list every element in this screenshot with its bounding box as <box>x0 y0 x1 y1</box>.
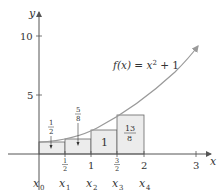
svg-text:2: 2 <box>63 165 67 173</box>
partition-label-x3: x 3 <box>112 177 123 192</box>
y-tick-label-10: 10 <box>20 31 33 42</box>
svg-text:5: 5 <box>76 106 80 114</box>
rectangle-1 <box>39 142 65 154</box>
y-tick-label-5: 5 <box>27 90 33 101</box>
svg-text:x: x <box>139 177 146 190</box>
svg-text:2: 2 <box>115 165 119 173</box>
svg-text:3: 3 <box>115 157 119 165</box>
y-axis-label: y <box>28 7 36 20</box>
svg-text:8: 8 <box>127 134 132 143</box>
x-tick-label-3half: 3 2 <box>114 157 120 173</box>
svg-text:3: 3 <box>119 184 123 192</box>
partition-label-x2: x 2 <box>86 177 97 192</box>
function-label: f(x) = x2 + 1 <box>112 59 179 71</box>
partition-label-x4: x 4 <box>139 177 151 192</box>
partition-label-x1: x 1 <box>59 177 70 192</box>
svg-text:1: 1 <box>63 157 67 165</box>
svg-text:x: x <box>33 177 40 190</box>
svg-text:2: 2 <box>93 184 97 192</box>
x-tick-label-1: 1 <box>88 160 94 171</box>
x-tick-label-3: 3 <box>193 160 199 171</box>
svg-text:f(x) = x2 + 1: f(x) = x2 + 1 <box>112 59 179 71</box>
x-tick-label-half: 1 2 <box>62 157 68 173</box>
area-label-3: 1 <box>101 136 108 149</box>
partition-label-x0: x 0 <box>33 177 44 192</box>
svg-text:13: 13 <box>125 124 135 133</box>
svg-text:8: 8 <box>76 115 80 123</box>
riemann-sum-diagram: y x 10 5 1 2 1 3 2 2 3 x 0 x 1 x 2 x 3 x… <box>0 0 221 195</box>
svg-text:4: 4 <box>146 184 151 192</box>
svg-text:1: 1 <box>49 119 53 127</box>
svg-text:x: x <box>112 177 119 190</box>
svg-text:0: 0 <box>40 184 44 192</box>
svg-text:2: 2 <box>49 128 53 136</box>
svg-text:x: x <box>86 177 93 190</box>
x-axis-label: x <box>210 155 217 168</box>
svg-text:x: x <box>59 177 66 190</box>
svg-text:1: 1 <box>66 184 70 192</box>
x-tick-label-2: 2 <box>141 160 147 171</box>
